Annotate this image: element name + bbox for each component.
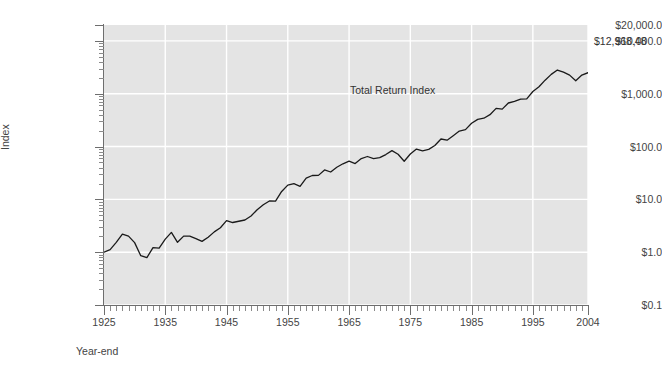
y-minor-tick [99,46,104,47]
x-minor-tick [459,306,460,311]
x-minor-tick [141,306,142,311]
x-tick [227,306,228,315]
x-minor-tick [245,306,246,311]
x-minor-tick [478,306,479,311]
y-minor-tick [99,202,104,203]
x-tick [349,306,350,315]
x-minor-tick [147,306,148,311]
x-minor-tick [496,306,497,311]
x-tick [165,306,166,315]
x-minor-tick [257,306,258,311]
x-minor-tick [208,306,209,311]
x-minor-tick [122,306,123,311]
x-minor-tick [435,306,436,311]
x-minor-tick [404,306,405,311]
x-minor-tick [214,306,215,311]
y-minor-tick [99,227,104,228]
x-minor-tick [441,306,442,311]
data-line [104,70,588,258]
x-tick-label: 1985 [460,317,483,328]
x-minor-tick [453,306,454,311]
x-minor-tick [325,306,326,311]
x-tick [533,306,534,315]
end-value-annotation: $12,968.48 [594,35,647,47]
y-minor-tick [99,260,104,261]
y-tick-label: $10.0 [574,194,662,205]
y-minor-tick [99,205,104,206]
y-minor-tick [99,162,104,163]
x-minor-tick [300,306,301,311]
x-minor-tick [515,306,516,311]
x-minor-tick [233,306,234,311]
x-tick-label: 2004 [576,317,599,328]
x-minor-tick [564,306,565,311]
x-minor-tick [508,306,509,311]
x-minor-tick [239,306,240,311]
y-minor-tick [99,264,104,265]
y-tick-label: $1,000.0 [574,89,662,100]
x-tick-label: 1995 [521,317,544,328]
x-minor-tick [429,306,430,311]
y-minor-tick [99,105,104,106]
y-minor-tick [99,174,104,175]
x-tick [472,306,473,315]
gridlines [104,25,588,305]
y-minor-tick [99,110,104,111]
x-minor-tick [361,306,362,311]
y-minor-tick [99,273,104,274]
y-axis-title: Index [0,124,11,150]
plot-svg [104,25,588,305]
y-minor-tick [99,268,104,269]
x-minor-tick [116,306,117,311]
x-minor-tick [171,306,172,311]
y-tick [95,252,104,253]
x-minor-tick [386,306,387,311]
y-tick-label: $0.1 [574,300,662,311]
y-minor-tick [99,131,104,132]
x-minor-tick [423,306,424,311]
x-minor-tick [417,306,418,311]
y-minor-tick [99,121,104,122]
y-minor-tick [99,53,104,54]
y-tick [95,94,104,95]
x-minor-tick [331,306,332,311]
y-minor-tick [99,57,104,58]
y-minor-tick [99,215,104,216]
y-minor-tick [99,280,104,281]
plot-area [104,25,588,305]
x-minor-tick [484,306,485,311]
x-minor-tick [367,306,368,311]
x-minor-tick [159,306,160,311]
y-minor-tick [99,49,104,50]
x-minor-tick [196,306,197,311]
x-minor-tick [380,306,381,311]
x-tick-label: 1925 [92,317,115,328]
y-tick [95,147,104,148]
x-minor-tick [318,306,319,311]
y-minor-tick [99,69,104,70]
y-minor-tick [99,220,104,221]
y-minor-tick [99,99,104,100]
y-minor-tick [99,184,104,185]
x-minor-tick [220,306,221,311]
x-minor-tick [337,306,338,311]
y-minor-tick [99,211,104,212]
x-minor-tick [521,306,522,311]
y-minor-tick [99,149,104,150]
x-tick-label: 1955 [276,317,299,328]
x-minor-tick [190,306,191,311]
x-minor-tick [466,306,467,311]
y-tick [95,25,104,26]
x-minor-tick [539,306,540,311]
x-minor-tick [398,306,399,311]
x-minor-tick [129,306,130,311]
x-minor-tick [306,306,307,311]
x-minor-tick [276,306,277,311]
x-minor-tick [153,306,154,311]
y-tick [95,41,104,42]
y-minor-tick [99,158,104,159]
x-tick [288,306,289,315]
x-minor-tick [343,306,344,311]
x-minor-tick [355,306,356,311]
x-minor-tick [178,306,179,311]
